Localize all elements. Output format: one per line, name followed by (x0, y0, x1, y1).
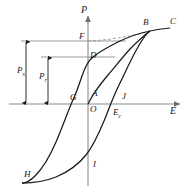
origin-label: O (90, 105, 97, 114)
p-axis-label: P (81, 5, 87, 15)
point-label-J: J (122, 92, 126, 101)
ps-subscript: s (23, 71, 25, 77)
remanent-polarization-label: Pr (39, 72, 47, 83)
ec-subscript: c (119, 113, 122, 119)
pr-subscript: r (45, 77, 47, 83)
e-axis-label: E (170, 106, 176, 116)
hysteresis-figure: P E O Ps Pr Ec F B C D A G J I H (0, 0, 193, 196)
coercive-field-label: Ec (113, 108, 121, 119)
descending-branch (22, 31, 150, 183)
hysteresis-plot (0, 0, 193, 196)
point-label-G: G (70, 93, 77, 102)
point-label-I: I (93, 160, 96, 169)
point-label-A: A (92, 89, 98, 98)
point-label-B: B (143, 18, 149, 27)
point-label-C: C (170, 17, 176, 26)
bc-tail (150, 28, 170, 31)
point-label-F: F (79, 32, 85, 41)
point-label-D: D (90, 51, 97, 60)
point-label-H: H (24, 170, 31, 179)
ascending-branch (22, 31, 150, 183)
saturation-polarization-label: Ps (17, 66, 25, 77)
